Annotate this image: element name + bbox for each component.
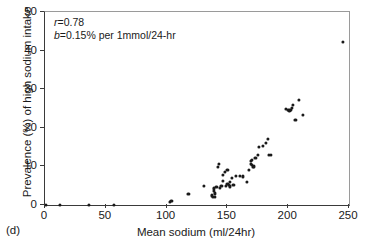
- y-axis-label: Prevalence (%) of high sodium intake: [21, 2, 33, 202]
- data-point: [267, 154, 270, 157]
- data-point: [261, 144, 264, 147]
- data-point: [228, 180, 231, 183]
- data-point: [87, 203, 90, 206]
- annotation-line-r: r=0.78: [54, 16, 176, 29]
- x-axis-tick: [105, 204, 106, 208]
- panel-label: (d): [6, 224, 20, 236]
- data-point: [231, 176, 234, 179]
- data-point: [58, 203, 61, 206]
- x-axis-tick-label: 0: [41, 209, 47, 221]
- data-point: [242, 175, 245, 178]
- data-point: [227, 183, 230, 186]
- data-point: [265, 142, 268, 145]
- x-axis-label: Mean sodium (ml/24hr): [44, 226, 348, 238]
- data-point: [203, 184, 206, 187]
- data-point: [253, 164, 256, 167]
- y-axis-tick: [40, 127, 44, 128]
- data-point: [45, 203, 48, 206]
- data-point: [270, 154, 273, 157]
- data-point: [215, 186, 218, 189]
- data-point: [226, 183, 229, 186]
- annotation-b-value: =0.15% per 1mmol/24-hr: [60, 29, 176, 41]
- data-point: [214, 195, 217, 198]
- scatter-plot-figure: 05010015020025001020304050 r=0.78 b=0.15…: [0, 0, 366, 247]
- x-axis-tick: [166, 204, 167, 208]
- data-point: [187, 192, 190, 195]
- y-axis-tick: [40, 88, 44, 89]
- data-point: [289, 108, 292, 111]
- data-point: [232, 183, 235, 186]
- data-point: [290, 107, 293, 110]
- data-point: [212, 187, 215, 190]
- x-axis-tick-label: 100: [156, 209, 175, 221]
- annotation-line-b: b=0.15% per 1mmol/24-hr: [54, 29, 176, 42]
- data-point: [169, 201, 172, 204]
- data-point: [266, 137, 269, 140]
- x-axis-tick: [348, 204, 349, 208]
- y-axis-tick: [40, 50, 44, 51]
- data-point: [291, 103, 294, 106]
- data-point: [294, 118, 297, 121]
- data-point: [341, 40, 344, 43]
- data-point: [249, 159, 252, 162]
- data-point: [257, 145, 260, 148]
- data-point: [251, 165, 254, 168]
- data-point: [225, 184, 228, 187]
- x-axis-tick-label: 150: [217, 209, 236, 221]
- data-point: [238, 174, 241, 177]
- x-axis-tick-label: 200: [278, 209, 297, 221]
- data-point: [250, 164, 253, 167]
- data-point: [250, 159, 253, 162]
- data-point: [216, 165, 219, 168]
- y-axis-tick: [40, 204, 44, 205]
- data-point: [228, 185, 231, 188]
- data-point: [254, 156, 257, 159]
- data-point: [298, 98, 301, 101]
- data-point: [220, 184, 223, 187]
- x-axis-tick: [226, 204, 227, 208]
- y-axis-tick: [40, 165, 44, 166]
- data-point: [234, 174, 237, 177]
- data-point: [249, 162, 252, 165]
- data-point: [219, 186, 222, 189]
- data-point: [226, 168, 229, 171]
- data-point: [214, 192, 217, 195]
- data-point: [248, 169, 251, 172]
- data-point: [284, 108, 287, 111]
- data-point: [210, 194, 213, 197]
- data-point: [217, 162, 220, 165]
- data-point: [245, 180, 248, 183]
- data-point: [113, 203, 116, 206]
- x-axis-tick: [44, 204, 45, 208]
- x-axis-tick-label: 250: [338, 209, 357, 221]
- data-point: [221, 174, 224, 177]
- x-axis-tick-label: 50: [98, 209, 111, 221]
- data-point: [253, 166, 256, 169]
- data-point: [170, 200, 173, 203]
- statistics-annotation: r=0.78 b=0.15% per 1mmol/24-hr: [54, 16, 176, 42]
- annotation-r-value: =0.78: [58, 16, 85, 28]
- data-point: [212, 190, 215, 193]
- data-point: [211, 195, 214, 198]
- data-point: [221, 179, 224, 182]
- data-point: [301, 113, 304, 116]
- x-axis-tick: [287, 204, 288, 208]
- data-point: [287, 108, 290, 111]
- y-axis-tick: [40, 11, 44, 12]
- data-point: [256, 154, 259, 157]
- data-point: [223, 170, 226, 173]
- data-point: [288, 109, 291, 112]
